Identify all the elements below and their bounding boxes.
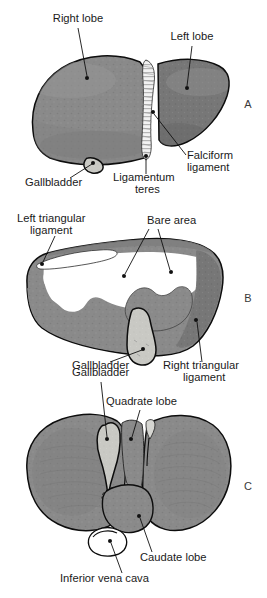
label-right-triangular-ligament: Right triangular: [163, 359, 239, 371]
figure-canvas: Right lobe Left lobe Falciform ligament …: [0, 0, 267, 598]
panel-letter-a: A: [244, 98, 252, 110]
label-left-triangular-ligament-line2: ligament: [30, 224, 73, 236]
label-right-lobe: Right lobe: [53, 12, 103, 24]
label-left-triangular-ligament: Left triangular: [17, 212, 86, 224]
label-ligamentum-teres-line2: teres: [135, 183, 160, 195]
caudate-lobe-shape: [102, 485, 153, 533]
label-bare-area: Bare area: [147, 214, 197, 226]
inferior-vena-cava-shape: [88, 528, 126, 557]
right-lobe-inferior-shading: [154, 430, 226, 518]
label-falciform-ligament: Falciform: [187, 149, 233, 161]
label-ligamentum-teres: Ligamentum: [113, 171, 175, 183]
panel-c-illustration: Gallbladder Quadrate lobe Caudate lobe I…: [27, 366, 252, 584]
panel-letter-c: C: [244, 480, 252, 492]
panel-a-illustration: Right lobe Left lobe Falciform ligament …: [24, 12, 252, 195]
label-left-lobe: Left lobe: [171, 30, 214, 42]
liver-anatomy-figure: Right lobe Left lobe Falciform ligament …: [0, 0, 267, 598]
label-falciform-ligament-line2: ligament: [187, 161, 230, 173]
panel-letter-b: B: [244, 292, 251, 304]
label-quadrate-lobe: Quadrate lobe: [106, 395, 177, 407]
label-inferior-vena-cava: Inferior vena cava: [60, 572, 150, 584]
label-caudate-lobe: Caudate lobe: [140, 551, 207, 563]
label-right-triangular-ligament-line2: ligament: [183, 371, 226, 383]
panel-b-illustration: Left triangular ligament Bare area Gallb…: [17, 212, 252, 383]
label-gallbladder-c: Gallbladder: [72, 366, 129, 378]
label-gallbladder-a: Gallbladder: [25, 176, 82, 188]
